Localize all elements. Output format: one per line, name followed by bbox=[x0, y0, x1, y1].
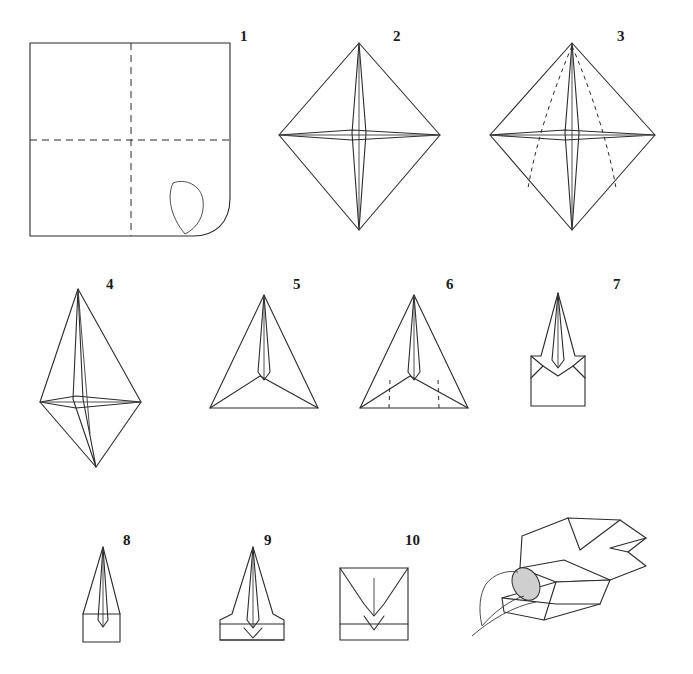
step-number-6: 6 bbox=[446, 277, 454, 292]
figure-step-9 bbox=[198, 542, 308, 652]
figure-step-5 bbox=[198, 290, 333, 420]
step-number-8: 8 bbox=[123, 533, 131, 548]
figure-step-2 bbox=[272, 38, 447, 238]
step-number-3: 3 bbox=[617, 29, 625, 44]
step-number-5: 5 bbox=[293, 277, 301, 292]
step-number-9: 9 bbox=[264, 533, 272, 548]
figure-step-1 bbox=[25, 38, 240, 243]
step-number-10: 10 bbox=[405, 533, 420, 548]
figure-final-hand bbox=[460, 508, 670, 658]
step-number-2: 2 bbox=[393, 29, 401, 44]
figure-step-3 bbox=[480, 38, 665, 238]
step-number-1: 1 bbox=[240, 29, 248, 44]
figure-step-4 bbox=[28, 284, 158, 474]
step-number-4: 4 bbox=[106, 277, 114, 292]
origami-instruction-diagram: 1 2 3 4 5 bbox=[0, 0, 693, 674]
figure-step-10 bbox=[322, 560, 432, 655]
figure-step-6 bbox=[348, 290, 483, 420]
figure-step-7 bbox=[503, 288, 613, 418]
step-number-7: 7 bbox=[613, 277, 621, 292]
figure-step-8 bbox=[58, 542, 148, 652]
